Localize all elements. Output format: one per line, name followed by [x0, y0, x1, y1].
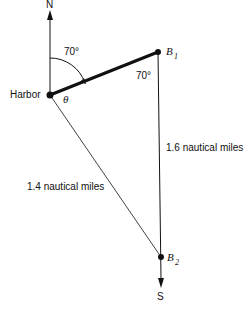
navigation-diagram: N 70° S Harbor θ B 1 70° B 2 1.6 nautica… — [0, 0, 252, 311]
harbor-label: Harbor — [10, 89, 41, 100]
north-label: N — [46, 0, 53, 10]
b1-label: B — [166, 45, 173, 57]
theta-label: θ — [63, 93, 69, 105]
harbor-point — [47, 92, 54, 99]
b2-point — [158, 254, 164, 260]
b1-subscript: 1 — [174, 52, 178, 61]
b1-point — [155, 49, 161, 55]
b2-label: B — [167, 251, 174, 263]
bearing-angle-label: 70° — [64, 46, 79, 57]
b2-subscript: 2 — [175, 258, 179, 267]
b1-b2-line — [158, 52, 161, 278]
bearing-arc — [50, 58, 85, 83]
north-arrow-icon — [47, 10, 53, 20]
harbor-b2-line — [50, 95, 161, 257]
harbor-b2-distance-label: 1.4 nautical miles — [27, 181, 104, 192]
b1-b2-distance-label: 1.6 nautical miles — [166, 142, 243, 153]
south-arrow-icon — [158, 278, 164, 288]
b1-angle-label: 70° — [136, 70, 151, 81]
south-label: S — [157, 291, 164, 302]
